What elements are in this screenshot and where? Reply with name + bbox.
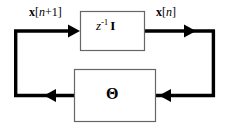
- unit-delay-label: z-1I: [96, 18, 115, 32]
- diagram-canvas: x[n+1] x[n] z-1I Θ: [0, 0, 229, 131]
- delay-exponent: -1: [101, 17, 108, 27]
- state-next-offset: +1: [45, 5, 58, 19]
- state-next-close-bracket: ]: [58, 5, 62, 19]
- arrowhead-into-delay: [68, 25, 80, 38]
- arrowhead-out-of-delay: [184, 25, 196, 38]
- state-current-close-bracket: ]: [172, 5, 176, 19]
- identity-matrix-symbol: I: [110, 18, 115, 33]
- state-current-label: x[n]: [156, 6, 176, 18]
- state-next-label: x[n+1]: [29, 6, 62, 18]
- arrowhead-out-of-theta: [44, 89, 56, 102]
- theta-symbol: Θ: [106, 86, 118, 102]
- arrowhead-into-theta: [159, 89, 171, 102]
